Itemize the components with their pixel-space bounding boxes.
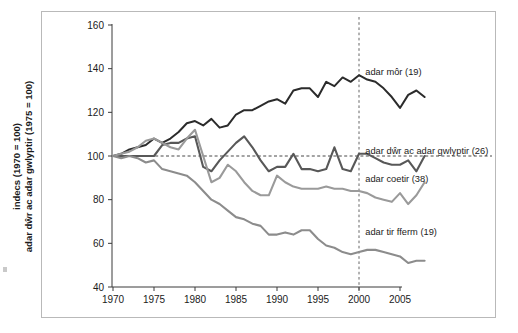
y-tick-label: 100: [87, 151, 104, 162]
series-label-0: adar môr (19): [365, 67, 421, 77]
y-tick-label: 140: [87, 63, 104, 74]
series-label-3: adar tir fferm (19): [365, 227, 437, 237]
y-tick-label: 60: [93, 238, 105, 249]
x-tick-label: 1975: [143, 294, 166, 305]
y-tick-label: 120: [87, 107, 104, 118]
y-tick-label: 40: [93, 282, 105, 293]
series-label-2: adar coetir (38): [365, 174, 428, 184]
x-tick-label: 1985: [225, 294, 248, 305]
chart-figure: indecs (1970 = 100) adar dŵr ac adar gwl…: [0, 0, 518, 333]
y-axis-ticks-group: 406080100120140160: [87, 20, 112, 293]
x-axis-ticks-group: 19701975198019851990199520002005: [102, 287, 412, 305]
y-tick-label: 160: [87, 20, 104, 31]
chart-plot-svg: 406080100120140160 197019751980198519901…: [0, 0, 518, 333]
data-line-series-0: [113, 75, 425, 156]
series-labels-group: adar môr (19)adar dŵr ac adar gwlyptir (…: [365, 67, 488, 236]
x-tick-label: 2005: [389, 294, 412, 305]
x-tick-label: 2000: [348, 294, 371, 305]
x-tick-label: 1980: [184, 294, 207, 305]
x-tick-label: 1995: [307, 294, 330, 305]
series-label-1: adar dŵr ac adar gwlyptir (26): [365, 146, 488, 156]
x-tick-label: 1990: [266, 294, 289, 305]
y-tick-label: 80: [93, 194, 105, 205]
x-tick-label: 1970: [102, 294, 125, 305]
